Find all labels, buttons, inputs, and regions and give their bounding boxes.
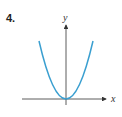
graph: x y [0,0,122,117]
y-axis-label: y [62,12,68,23]
x-axis-label: x [110,93,116,104]
